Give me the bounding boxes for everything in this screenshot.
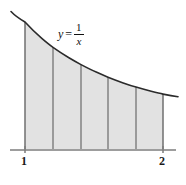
figure-container: 1 2 y= 1 x (0, 0, 186, 185)
curve-equation-label: y= 1 x (58, 23, 84, 48)
x-axis-tick-label-2: 2 (159, 155, 165, 167)
equation-variable: y (58, 27, 63, 41)
equation-fraction: 1 x (74, 22, 84, 47)
x-axis-tick-label-1: 1 (21, 155, 27, 167)
equation-equals-sign: = (65, 27, 72, 41)
fraction-numerator: 1 (74, 22, 84, 34)
fraction-denominator: x (74, 36, 84, 48)
